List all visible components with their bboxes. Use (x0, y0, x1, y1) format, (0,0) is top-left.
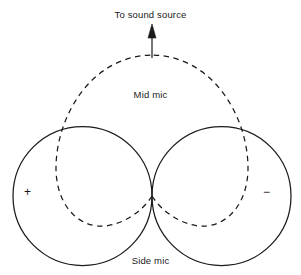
label-mid-mic: Mid mic (0, 90, 301, 100)
polar-pattern-plot (0, 0, 301, 275)
label-polarity-negative: − (263, 186, 270, 198)
mid-mic-cardioid-right (152, 55, 248, 226)
label-sound-source: To sound source (0, 10, 301, 20)
polar-pattern-diagram: To sound source Mid mic Side mic + − (0, 0, 301, 275)
arrow-head (148, 24, 156, 38)
label-polarity-positive: + (24, 186, 31, 198)
label-side-mic: Side mic (0, 256, 301, 266)
side-mic-positive-lobe (13, 127, 152, 266)
arrow-up-icon (148, 24, 156, 58)
mid-mic-cardioid-left (56, 55, 152, 226)
